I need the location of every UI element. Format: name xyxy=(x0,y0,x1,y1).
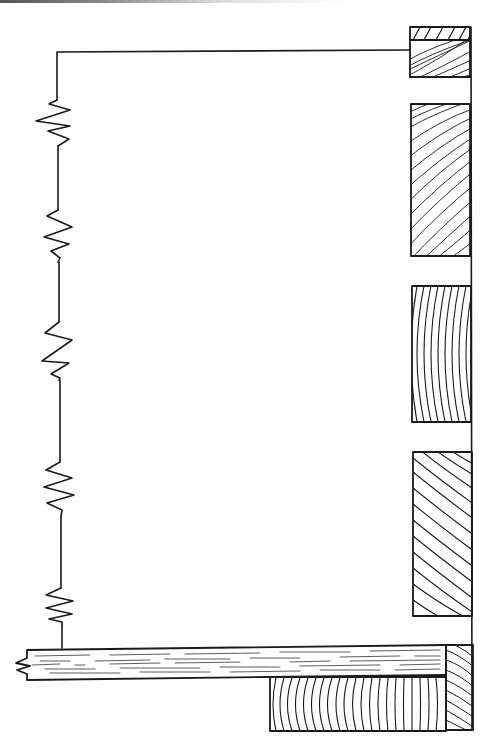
wood-block-3 xyxy=(411,286,480,422)
resistor-icon xyxy=(42,322,72,380)
wood-bottom-block xyxy=(270,677,446,731)
circuit-wire xyxy=(57,50,410,648)
resistor-icon xyxy=(44,210,72,262)
wood-corner-post xyxy=(446,645,475,732)
wood-block-2 xyxy=(405,100,475,262)
resistor-icon xyxy=(44,462,74,516)
resistor-icon xyxy=(36,100,70,146)
diagram-canvas xyxy=(0,0,496,754)
top-block xyxy=(395,27,480,88)
resistor-icon xyxy=(46,588,73,624)
wood-block-4 xyxy=(413,450,475,620)
wood-plank xyxy=(16,645,446,680)
